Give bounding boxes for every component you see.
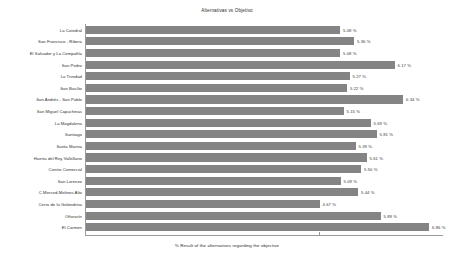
bar-track: 6.17 % bbox=[86, 61, 446, 69]
bar bbox=[86, 188, 358, 196]
category-label: San Francisco - Ribera bbox=[38, 39, 82, 44]
category-label: La Magdalena bbox=[55, 120, 82, 125]
bar bbox=[86, 95, 403, 103]
bar-row: San Francisco - Ribera5.36 % bbox=[86, 37, 446, 45]
bar-track: 5.61 % bbox=[86, 153, 446, 161]
bar bbox=[86, 26, 340, 34]
bar bbox=[86, 153, 367, 161]
x-axis-line bbox=[85, 235, 443, 236]
category-label: La Catedral bbox=[60, 27, 82, 32]
bar-row: La Trinidad5.27 % bbox=[86, 72, 446, 80]
bar-value-label: 5.15 % bbox=[347, 109, 361, 114]
category-label: Oñorarín bbox=[65, 213, 82, 218]
bar-track: 5.50 % bbox=[86, 165, 446, 173]
x-axis-title: % Result of the alternatives regarding t… bbox=[0, 243, 454, 248]
bar-track: 5.81 % bbox=[86, 130, 446, 138]
bar-row: Huerta del Rey Vallellano5.61 % bbox=[86, 153, 446, 161]
category-label: San Lorenzo bbox=[58, 178, 82, 183]
bar-value-label: 5.89 % bbox=[384, 213, 398, 218]
bar-track: 5.08 % bbox=[86, 26, 446, 34]
category-label: El Carmen bbox=[62, 225, 82, 230]
bar bbox=[86, 84, 347, 92]
bar-row: San Andrés - San Pablo6.34 % bbox=[86, 95, 446, 103]
bar-track: 5.08 % bbox=[86, 49, 446, 57]
bar bbox=[86, 72, 350, 80]
bar-value-label: 6.86 % bbox=[432, 225, 446, 230]
bar-value-label: 6.34 % bbox=[406, 97, 420, 102]
bar-row: Oñorarín5.89 % bbox=[86, 212, 446, 220]
bar-value-label: 5.61 % bbox=[370, 155, 384, 160]
bar-value-label: 5.81 % bbox=[380, 132, 394, 137]
category-label: San Pedro bbox=[62, 62, 82, 67]
category-label: Centro Comercial bbox=[49, 167, 82, 172]
category-label: Santa Marina bbox=[56, 143, 82, 148]
bar-track: 6.34 % bbox=[86, 95, 446, 103]
bar-chart: Alternativas vs Objetivo La Catedral5.08… bbox=[0, 0, 454, 257]
bar-value-label: 5.09 % bbox=[344, 178, 358, 183]
category-label: San Basílio bbox=[60, 85, 82, 90]
bar-value-label: 5.50 % bbox=[364, 167, 378, 172]
bar bbox=[86, 200, 320, 208]
category-label: El Salvador y La Compañía bbox=[30, 51, 82, 56]
bar bbox=[86, 61, 395, 69]
bar bbox=[86, 37, 354, 45]
bar-value-label: 4.67 % bbox=[323, 201, 337, 206]
bar-value-label: 5.39 % bbox=[359, 143, 373, 148]
bar-track: 5.69 % bbox=[86, 119, 446, 127]
bar-row: San Pedro6.17 % bbox=[86, 61, 446, 69]
bar-row: El Salvador y La Compañía5.08 % bbox=[86, 49, 446, 57]
category-label: San Miguel Capuchinas bbox=[37, 109, 82, 114]
bar-row: San Miguel Capuchinas5.15 % bbox=[86, 107, 446, 115]
bar-track: 5.39 % bbox=[86, 142, 446, 150]
bar-row: San Lorenzo5.09 % bbox=[86, 177, 446, 185]
bar-row: San Basílio5.22 % bbox=[86, 84, 446, 92]
bar-track: 5.09 % bbox=[86, 177, 446, 185]
bar-value-label: 6.17 % bbox=[398, 62, 412, 67]
bar-row: El Carmen6.86 % bbox=[86, 223, 446, 231]
bar-row: Cerro de la Golondrina4.67 % bbox=[86, 200, 446, 208]
bar-track: 5.44 % bbox=[86, 188, 446, 196]
category-label: Santiago bbox=[65, 132, 82, 137]
bar bbox=[86, 49, 340, 57]
category-label: C.Merced-Molinos Alto bbox=[39, 190, 82, 195]
bar-value-label: 5.22 % bbox=[350, 85, 364, 90]
bar-row: Centro Comercial5.50 % bbox=[86, 165, 446, 173]
category-label: Huerta del Rey Vallellano bbox=[34, 155, 82, 160]
bar-value-label: 5.27 % bbox=[353, 74, 367, 79]
bar-track: 5.36 % bbox=[86, 37, 446, 45]
category-label: La Trinidad bbox=[61, 74, 82, 79]
bar-track: 5.27 % bbox=[86, 72, 446, 80]
bar bbox=[86, 177, 341, 185]
bar bbox=[86, 142, 356, 150]
bar-track: 4.67 % bbox=[86, 200, 446, 208]
bar-track: 6.86 % bbox=[86, 223, 446, 231]
bar-value-label: 5.69 % bbox=[374, 120, 388, 125]
bar-row: La Catedral5.08 % bbox=[86, 26, 446, 34]
bar bbox=[86, 165, 361, 173]
bar-value-label: 5.44 % bbox=[361, 190, 375, 195]
category-label: Cerro de la Golondrina bbox=[39, 201, 82, 206]
plot-area: La Catedral5.08 %San Francisco - Ribera5… bbox=[86, 24, 446, 233]
bar bbox=[86, 212, 381, 220]
chart-title: Alternativas vs Objetivo bbox=[0, 8, 454, 13]
bar bbox=[86, 119, 371, 127]
bar-value-label: 5.08 % bbox=[343, 27, 357, 32]
bar bbox=[86, 130, 377, 138]
bar bbox=[86, 107, 344, 115]
bar-value-label: 5.36 % bbox=[357, 39, 371, 44]
bar-row: C.Merced-Molinos Alto5.44 % bbox=[86, 188, 446, 196]
bar-track: 5.15 % bbox=[86, 107, 446, 115]
bar-track: 5.22 % bbox=[86, 84, 446, 92]
bar-row: La Magdalena5.69 % bbox=[86, 119, 446, 127]
bar bbox=[86, 223, 429, 231]
bar-track: 5.89 % bbox=[86, 212, 446, 220]
bar-value-label: 5.08 % bbox=[343, 51, 357, 56]
bar-row: Santa Marina5.39 % bbox=[86, 142, 446, 150]
bar-row: Santiago5.81 % bbox=[86, 130, 446, 138]
category-label: San Andrés - San Pablo bbox=[36, 97, 82, 102]
